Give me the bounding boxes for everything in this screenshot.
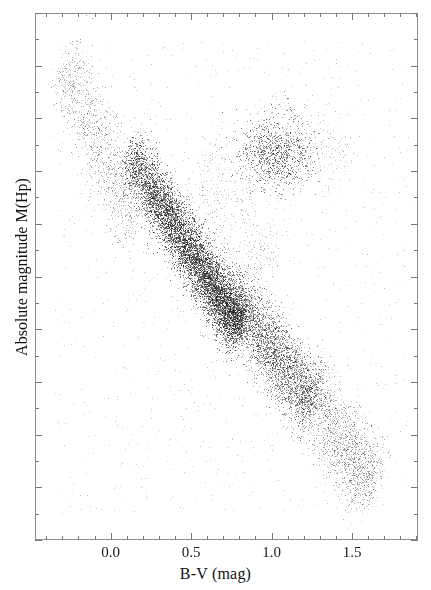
x-tick-0.9 <box>255 536 256 540</box>
x-tick-top-0.9 <box>255 13 256 17</box>
y-tick-right-18 <box>411 487 418 488</box>
x-tick--0.4 <box>46 536 47 540</box>
x-tick-1.6 <box>368 536 369 540</box>
y-tick-right-0 <box>411 13 418 14</box>
x-tick-top--0.1 <box>95 13 96 17</box>
y-tick-right-13 <box>414 356 418 357</box>
x-tick-1.0 <box>272 533 273 540</box>
y-tick-17 <box>35 461 39 462</box>
x-tick-top-0.5 <box>191 13 192 20</box>
x-tick-top--0.4 <box>46 13 47 17</box>
y-tick-right-8 <box>411 224 418 225</box>
y-tick-3 <box>35 92 39 93</box>
y-tick-2 <box>35 66 42 67</box>
y-tick-13 <box>35 356 39 357</box>
y-tick-right-2 <box>411 66 418 67</box>
plot-area <box>35 13 418 540</box>
y-tick-15 <box>35 408 39 409</box>
y-tick-6 <box>35 171 42 172</box>
x-tick-label-1: 0.5 <box>161 545 221 560</box>
x-tick-top-0.7 <box>223 13 224 17</box>
x-tick-top-1.0 <box>272 13 273 20</box>
y-tick-right-9 <box>414 250 418 251</box>
x-tick--0.1 <box>95 536 96 540</box>
y-tick-right-20 <box>411 540 418 541</box>
x-tick-0.2 <box>143 536 144 540</box>
x-tick-1.3 <box>320 536 321 540</box>
x-tick-label-3: 1.5 <box>322 545 382 560</box>
scatter-plot-canvas <box>36 14 418 540</box>
x-tick-top-0.0 <box>111 13 112 20</box>
y-tick-1 <box>35 39 39 40</box>
x-tick-0.8 <box>239 536 240 540</box>
y-tick-right-3 <box>414 92 418 93</box>
y-tick-right-1 <box>414 39 418 40</box>
x-tick-top--0.2 <box>78 13 79 17</box>
x-tick-top-0.8 <box>239 13 240 17</box>
x-tick-1.5 <box>352 533 353 540</box>
y-tick-right-10 <box>411 277 418 278</box>
x-tick-0.7 <box>223 536 224 540</box>
y-tick-7 <box>35 197 39 198</box>
y-tick-20 <box>35 540 42 541</box>
x-tick-label-0: 0.0 <box>81 545 141 560</box>
x-tick-label-2: 1.0 <box>242 545 302 560</box>
x-tick-top-1.8 <box>400 13 401 17</box>
x-tick-top-1.6 <box>368 13 369 17</box>
y-tick-9 <box>35 250 39 251</box>
y-tick-16 <box>35 435 42 436</box>
x-tick-0.5 <box>191 533 192 540</box>
y-tick-right-5 <box>414 145 418 146</box>
x-tick-top-1.7 <box>384 13 385 17</box>
x-tick-top-0.2 <box>143 13 144 17</box>
x-tick-top-0.4 <box>175 13 176 17</box>
y-tick-14 <box>35 382 42 383</box>
y-tick-right-14 <box>411 382 418 383</box>
x-tick-0.1 <box>127 536 128 540</box>
y-tick-18 <box>35 487 42 488</box>
y-tick-12 <box>35 329 42 330</box>
x-tick-top-1.3 <box>320 13 321 17</box>
y-tick-right-15 <box>414 408 418 409</box>
y-tick-right-11 <box>414 303 418 304</box>
y-tick-8 <box>35 224 42 225</box>
x-tick-0.0 <box>111 533 112 540</box>
x-tick--0.3 <box>62 536 63 540</box>
x-tick-1.2 <box>304 536 305 540</box>
y-tick-right-12 <box>411 329 418 330</box>
x-tick-top-1.2 <box>304 13 305 17</box>
x-tick--0.2 <box>78 536 79 540</box>
x-tick-top-0.3 <box>159 13 160 17</box>
y-tick-4 <box>35 118 42 119</box>
y-tick-right-17 <box>414 461 418 462</box>
x-tick-0.6 <box>207 536 208 540</box>
y-tick-right-16 <box>411 435 418 436</box>
x-tick-top-0.6 <box>207 13 208 17</box>
x-tick-1.8 <box>400 536 401 540</box>
x-tick-top-0.1 <box>127 13 128 17</box>
y-tick-0 <box>35 13 42 14</box>
x-tick-top-1.1 <box>288 13 289 17</box>
x-tick-top--0.3 <box>62 13 63 17</box>
x-axis-title: B-V (mag) <box>0 565 431 583</box>
y-tick-11 <box>35 303 39 304</box>
x-tick-top-1.5 <box>352 13 353 20</box>
y-tick-right-6 <box>411 171 418 172</box>
y-tick-10 <box>35 277 42 278</box>
y-axis-title: Absolute magnitude M(Hp) <box>13 147 31 387</box>
x-tick-0.3 <box>159 536 160 540</box>
x-tick-1.1 <box>288 536 289 540</box>
y-tick-right-19 <box>414 514 418 515</box>
y-tick-19 <box>35 514 39 515</box>
y-tick-right-7 <box>414 197 418 198</box>
y-tick-right-4 <box>411 118 418 119</box>
x-tick-1.7 <box>384 536 385 540</box>
x-tick-1.4 <box>336 536 337 540</box>
hr-diagram-figure: 0.00.51.01.5 B-V (mag) Absolute magnitud… <box>0 0 431 590</box>
y-tick-5 <box>35 145 39 146</box>
x-tick-0.4 <box>175 536 176 540</box>
x-tick-top-1.4 <box>336 13 337 17</box>
